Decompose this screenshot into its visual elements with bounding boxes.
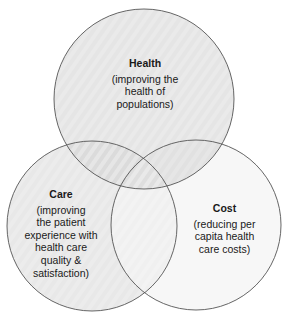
cost-label: Cost (reducing per capita health care co… (177, 202, 272, 255)
cost-title: Cost (177, 202, 272, 215)
health-description: (improving the health of populations) (95, 73, 195, 111)
care-description: (improving the patient experience with h… (11, 204, 111, 280)
cost-description: (reducing per capita health care costs) (177, 218, 272, 256)
health-title: Health (95, 57, 195, 70)
care-title: Care (11, 188, 111, 201)
care-label: Care (improving the patient experience w… (11, 188, 111, 279)
health-label: Health (improving the health of populati… (95, 57, 195, 110)
